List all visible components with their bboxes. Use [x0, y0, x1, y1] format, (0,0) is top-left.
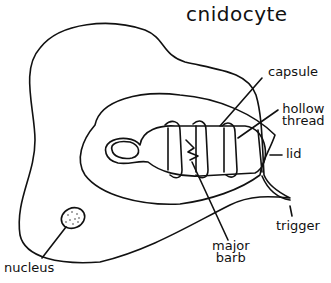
- cell-outline: [19, 24, 290, 263]
- label-capsule: capsule: [268, 66, 318, 78]
- label-hollow-thread-line2: thread: [282, 115, 325, 127]
- nucleus-leader: [42, 227, 66, 258]
- label-lid: lid: [286, 148, 301, 160]
- label-nucleus: nucleus: [4, 262, 54, 274]
- label-hollow-thread: hollow thread: [282, 103, 325, 127]
- diagram-drawing: [0, 0, 331, 283]
- capsule-body: [106, 126, 266, 176]
- nucleus-stipple: [65, 211, 79, 224]
- label-trigger: trigger: [276, 220, 320, 232]
- label-major-barb-line2: barb: [212, 252, 250, 264]
- cnidocyte-diagram: cnidocyte capsule hollow thread lid trig…: [0, 0, 331, 283]
- inner-sac-outline: [80, 94, 275, 204]
- diagram-title: cnidocyte: [186, 4, 288, 24]
- thread-inner-line: [168, 126, 224, 172]
- label-major-barb: major barb: [212, 240, 250, 264]
- capsule-neck-loop: [112, 141, 139, 158]
- nucleus-shape: [58, 204, 88, 232]
